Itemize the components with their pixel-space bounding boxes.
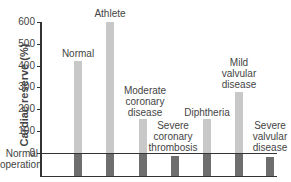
y-tick-mark <box>37 109 41 110</box>
y-tick-300: 300 <box>11 82 35 92</box>
bar-severe-coronary-operation <box>171 156 179 176</box>
label-normal: Normal <box>58 48 98 59</box>
y-tick-mark <box>37 22 41 23</box>
normal-operation-label: Normal operation <box>0 148 38 170</box>
bar-diphtheria-operation <box>203 154 211 176</box>
bar-severe-valvular-operation <box>266 157 274 176</box>
bar-athlete-operation <box>106 154 114 176</box>
label-athlete: Athlete <box>90 8 130 19</box>
bar-athlete-reserve <box>106 22 114 153</box>
bar-moderate-coronary-operation <box>139 154 147 176</box>
y-tick-mark <box>37 44 41 45</box>
y-tick-600: 600 <box>11 17 35 27</box>
y-tick-400: 400 <box>11 61 35 71</box>
y-tick-100: 100 <box>11 126 35 136</box>
y-tick-200: 200 <box>11 104 35 114</box>
label-mild-valvular-disease: Mild valvular disease <box>216 57 262 90</box>
label-severe-coronary-thrombosis: Severe coronary thrombosis <box>145 120 201 153</box>
zero-baseline <box>37 153 277 154</box>
bar-mild-valvular-reserve <box>235 92 243 153</box>
label-moderate-coronary-disease: Moderate coronary disease <box>120 85 170 118</box>
label-diphtheria: Diphtheria <box>180 107 234 118</box>
y-tick-mark <box>37 66 41 67</box>
bar-normal-operation <box>74 154 82 176</box>
bar-mild-valvular-operation <box>235 154 243 176</box>
x-axis-line <box>40 176 277 177</box>
bar-normal-reserve <box>74 61 82 153</box>
label-severe-valvular-disease: Severe valvular disease <box>248 120 291 153</box>
y-tick-mark <box>37 131 41 132</box>
cardiac-reserve-chart: Cardiac reserve (%) 600 500 400 300 200 … <box>0 0 291 182</box>
bar-diphtheria-reserve <box>203 119 211 153</box>
y-tick-mark <box>37 87 41 88</box>
y-tick-500: 500 <box>11 39 35 49</box>
